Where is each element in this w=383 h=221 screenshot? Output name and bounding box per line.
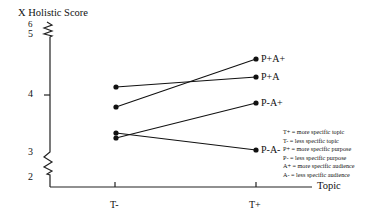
x-axis (50, 182, 312, 187)
x-tick-tminus: T- (110, 199, 119, 210)
legend-item: P+ = more specific purpose (283, 145, 355, 154)
legend-item: A- = less specific audience (283, 171, 355, 180)
x-axis-label: Topic (317, 180, 341, 191)
series-label-p-plus-a: P+A (261, 71, 279, 82)
y-tick-3: 3 (28, 146, 33, 157)
legend: T+ = more specific topic T- = less speci… (283, 128, 355, 180)
series-label-p-minus-a-plus: P-A+ (261, 97, 283, 108)
data-points (113, 56, 258, 152)
legend-item: T+ = more specific topic (283, 128, 355, 137)
legend-item: T- = less specific topic (283, 137, 355, 146)
legend-item: P- = less specific purpose (283, 154, 355, 163)
series-label-p-plus-a-plus: P+A+ (261, 53, 285, 64)
y-tick-5: 5 (28, 28, 33, 39)
y-tick-4: 4 (28, 88, 33, 99)
series-lines (116, 59, 256, 150)
y-tick-2: 2 (28, 171, 33, 182)
x-tick-tplus: T+ (249, 199, 261, 210)
y-axis (44, 22, 52, 187)
y-axis-label: X Holistic Score (18, 7, 88, 18)
legend-item: A+ = more specific audience (283, 162, 355, 171)
series-label-p-minus-a-minus: P-A- (261, 144, 280, 155)
